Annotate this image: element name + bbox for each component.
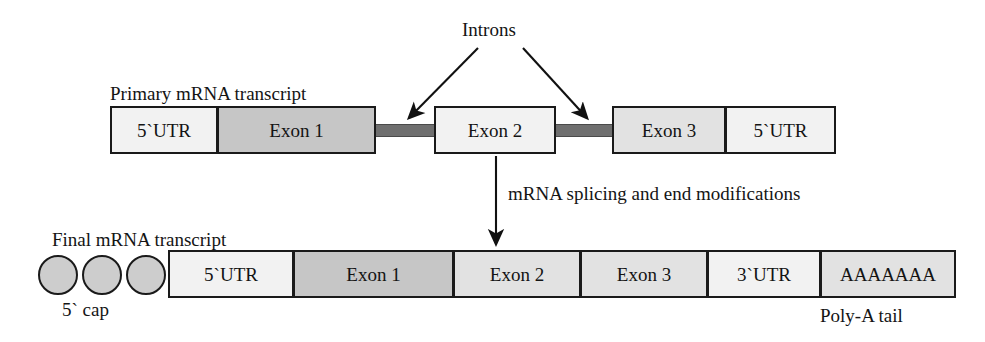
- primary-segment-exon-3[interactable]: Exon 3: [612, 106, 726, 154]
- splicing-step-label: mRNA splicing and end modifications: [508, 184, 800, 203]
- final-transcript-row: 5`UTR Exon 1 Exon 2 Exon 3 3`UTR AAAAAAA: [168, 250, 956, 298]
- primary-segment-5utr-right[interactable]: 5`UTR: [726, 106, 836, 154]
- segment-label: 5`UTR: [137, 121, 191, 140]
- segment-label: Exon 3: [642, 121, 696, 140]
- intron-bar-2: [554, 124, 616, 137]
- segment-label: Exon 1: [346, 265, 400, 284]
- segment-label: Exon 3: [617, 265, 671, 284]
- segment-label: 5`UTR: [204, 265, 258, 284]
- final-transcript-label: Final mRNA transcript: [52, 230, 226, 249]
- primary-transcript-row: 5`UTR Exon 1 Exon 2 Exon 3 5`UTR: [110, 106, 836, 154]
- segment-label: Exon 1: [269, 121, 323, 140]
- segment-label: 5`UTR: [754, 121, 808, 140]
- segment-label: Exon 2: [468, 121, 522, 140]
- primary-segment-exon-1[interactable]: Exon 1: [218, 106, 376, 154]
- primary-transcript-label: Primary mRNA transcript: [110, 84, 306, 103]
- introns-label: Introns: [462, 20, 516, 39]
- final-segment-exon-2[interactable]: Exon 2: [454, 250, 581, 298]
- primary-segment-exon-2[interactable]: Exon 2: [434, 106, 556, 154]
- segment-label: AAAAAAA: [840, 265, 936, 284]
- cap-circle-1: [38, 255, 78, 295]
- final-segment-3utr[interactable]: 3`UTR: [708, 250, 821, 298]
- segment-label: 3`UTR: [737, 265, 791, 284]
- final-segment-poly-a[interactable]: AAAAAAA: [821, 250, 956, 298]
- segment-label: Exon 2: [490, 265, 544, 284]
- final-segment-exon-1[interactable]: Exon 1: [294, 250, 454, 298]
- cap-circle-3: [126, 255, 166, 295]
- primary-segment-5utr-left[interactable]: 5`UTR: [110, 106, 218, 154]
- final-segment-5utr[interactable]: 5`UTR: [168, 250, 294, 298]
- diagram-canvas: Introns Primary mRNA transcript mRNA spl…: [0, 0, 985, 342]
- cap-circle-2: [82, 255, 122, 295]
- poly-a-tail-label: Poly-A tail: [820, 306, 903, 325]
- final-segment-exon-3[interactable]: Exon 3: [581, 250, 708, 298]
- intron-bar-1: [374, 124, 438, 137]
- five-prime-cap-label: 5` cap: [62, 300, 109, 319]
